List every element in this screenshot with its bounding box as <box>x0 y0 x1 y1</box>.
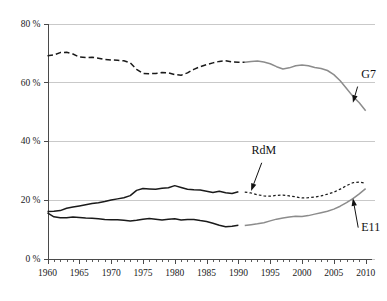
gridlines-group <box>48 25 376 260</box>
y-tick-label-60: 60 % <box>21 78 41 88</box>
y-tick-label-0: 0 % <box>25 254 40 264</box>
annotation-leader-rdm <box>254 163 262 184</box>
line-chart-svg: G7RdME11 0 %20 %40 %60 %80 % 19601965197… <box>0 0 387 301</box>
x-tick-label-2010: 2010 <box>356 268 375 278</box>
chart-container: G7RdME11 0 %20 %40 %60 %80 % 19601965197… <box>0 0 387 301</box>
y-tick-label-20: 20 % <box>21 195 41 205</box>
x-tick-label-1970: 1970 <box>102 268 121 278</box>
annotation-arrowhead-g7 <box>352 95 357 103</box>
x-tick-label-1965: 1965 <box>70 268 89 278</box>
x-tick-label-1995: 1995 <box>261 268 280 278</box>
annotation-label-rdm: RdM <box>251 143 276 157</box>
x-tick-label-1985: 1985 <box>197 268 216 278</box>
y-tick-label-40: 40 % <box>21 136 41 146</box>
series-line-e11-recent <box>245 189 366 226</box>
y-tick-labels-group: 0 %20 %40 %60 %80 % <box>21 19 41 264</box>
annotations-group: G7RdME11 <box>251 67 380 234</box>
x-tick-label-2005: 2005 <box>324 268 343 278</box>
annotation-arrowhead-rdm <box>251 183 256 191</box>
ticks-group <box>44 25 367 265</box>
x-tick-label-1990: 1990 <box>229 268 248 278</box>
x-tick-label-2000: 2000 <box>293 268 312 278</box>
series-line-e11-historical <box>48 213 239 227</box>
y-tick-label-80: 80 % <box>21 19 41 29</box>
x-tick-label-1975: 1975 <box>133 268 152 278</box>
annotation-leader-g7 <box>355 87 358 96</box>
series-line-g7-historical <box>48 52 245 75</box>
annotation-label-e11: E11 <box>361 220 380 234</box>
series-line-rdm-historical <box>48 186 239 212</box>
x-tick-label-1960: 1960 <box>38 268 57 278</box>
x-tick-label-1980: 1980 <box>165 268 184 278</box>
annotation-label-g7: G7 <box>361 67 376 81</box>
series-line-rdm-recent <box>245 182 366 198</box>
x-tick-labels-group: 1960196519701975198019851990199520002005… <box>38 268 375 278</box>
annotation-leader-e11 <box>354 206 358 228</box>
series-line-g7-recent <box>245 61 366 111</box>
